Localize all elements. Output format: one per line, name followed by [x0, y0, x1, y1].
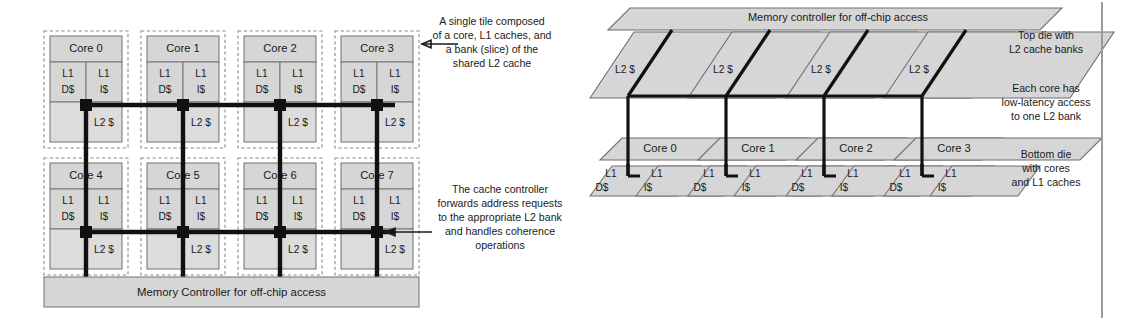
tile-l1i-line1: L1: [292, 195, 304, 206]
l1i-3d-line1: L1: [749, 168, 761, 179]
l1d-3d-line2: D$: [595, 182, 608, 193]
tile-l1i-line2: I$: [391, 84, 400, 95]
memory-controller-bar: Memory Controller for off-chip access: [44, 277, 419, 307]
tile-l1i-line1: L1: [389, 68, 401, 79]
tile-note-line-4: shared L2 cache: [453, 57, 531, 69]
tile-l2-label: L2 $: [191, 117, 211, 128]
l1i-3d-line2: I$: [840, 182, 849, 193]
tile-l1d-line1: L1: [62, 195, 74, 206]
tile-l2-label: L2 $: [191, 244, 211, 255]
core-3d-label: Core 1: [741, 142, 775, 154]
l1i-3d-line2: I$: [644, 182, 653, 193]
latency-note-line-3: to one L2 bank: [1011, 110, 1082, 122]
l1d-3d-line1: L1: [605, 168, 617, 179]
memory-controller-label: Memory Controller for off-chip access: [137, 286, 326, 298]
l2-bank-label: L2 $: [909, 64, 929, 75]
l1i-3d-line1: L1: [945, 168, 957, 179]
bottom-die-l1-caches: L1 D$ L1 I$ L1 D$ L1 I$ L1 D$ L1 I$: [590, 166, 1040, 196]
figure-canvas: Core 0 L1 D$ L1 I$ L2 $ Core 1 L1 D$ L1: [0, 0, 1137, 320]
memory-controller-3d-label: Memory controller for off-chip access: [748, 11, 929, 23]
tile-l1d-line2: D$: [255, 211, 268, 222]
top-die-note-line-2: L2 cache banks: [1009, 43, 1083, 55]
l2-bank-label: L2 $: [615, 64, 635, 75]
l1d-3d-line2: D$: [693, 182, 706, 193]
tile-l1d-line2: D$: [61, 211, 74, 222]
l1i-3d-line2: I$: [742, 182, 751, 193]
core-3d-label: Core 3: [937, 142, 971, 154]
tile-l1i-line1: L1: [98, 68, 110, 79]
l1i-3d-line2: I$: [938, 182, 947, 193]
latency-note-line-2: low-latency access: [1002, 96, 1091, 108]
tile-l1i-line2: I$: [294, 211, 303, 222]
tile-l2-label: L2 $: [385, 244, 405, 255]
controller-note-line-4: and handles coherence: [445, 225, 555, 237]
annotation-bottom-die: Bottom die with cores and L1 caches: [1012, 148, 1081, 188]
l1d-3d-line1: L1: [801, 168, 813, 179]
controller-note-line-3: to the appropriate L2 bank: [438, 211, 562, 223]
tile-l1d-line2: D$: [158, 211, 171, 222]
tile-l1d-line2: D$: [255, 84, 268, 95]
annotation-tile-note: A single tile composed of a core, L1 cac…: [422, 15, 552, 69]
tile-note-line-2: of a core, L1 caches, and: [433, 29, 552, 41]
core-3d-label: Core 0: [643, 142, 677, 154]
l1i-3d-line1: L1: [847, 168, 859, 179]
tile-l1d-line2: D$: [61, 84, 74, 95]
core-3d-label: Core 2: [839, 142, 873, 154]
l2-bank-label: L2 $: [811, 64, 831, 75]
figure-root: Core 0 L1 D$ L1 I$ L2 $ Core 1 L1 D$ L1: [0, 0, 1137, 320]
tile-note-line-1: A single tile composed: [439, 15, 545, 27]
tile-l1d-line1: L1: [62, 68, 74, 79]
tile-l2-label: L2 $: [385, 117, 405, 128]
controller-note-line-1: The cache controller: [452, 183, 548, 195]
tile-l1i-line2: I$: [391, 211, 400, 222]
memory-controller-3d: Memory controller for off-chip access: [608, 8, 1062, 30]
tile-l2-label: L2 $: [94, 117, 114, 128]
tile-l2-label: L2 $: [288, 244, 308, 255]
tile-l1d-line2: D$: [158, 84, 171, 95]
tile-l1d-line2: D$: [352, 84, 365, 95]
tile-l1i-line1: L1: [195, 68, 207, 79]
top-die-note-line-1: Top die with: [1018, 29, 1074, 41]
tile-l1d-line1: L1: [159, 68, 171, 79]
tile-core-label: Core 2: [263, 42, 297, 54]
tile-l1i-line2: I$: [197, 84, 206, 95]
bottom-die-note-line-2: with cores: [1021, 162, 1070, 174]
tile-l1d-line1: L1: [256, 195, 268, 206]
bottom-die-note-line-3: and L1 caches: [1012, 176, 1081, 188]
tile-l1i-line1: L1: [98, 195, 110, 206]
tile-core-label: Core 3: [360, 42, 394, 54]
l1i-3d-line1: L1: [651, 168, 663, 179]
tile-l1i-line1: L1: [195, 195, 207, 206]
l1d-3d-line2: D$: [889, 182, 902, 193]
tile-l1d-line1: L1: [256, 68, 268, 79]
tile-l1i-line2: I$: [100, 84, 109, 95]
tile-l1d-line1: L1: [159, 195, 171, 206]
tile-core-label: Core 1: [166, 42, 200, 54]
tile-l1i-line2: I$: [294, 84, 303, 95]
tile-l1i-line1: L1: [292, 68, 304, 79]
tile-core-label: Core 0: [69, 42, 103, 54]
tile-l1i-line1: L1: [389, 195, 401, 206]
bottom-die-note-line-1: Bottom die: [1021, 148, 1072, 160]
l1d-3d-line1: L1: [703, 168, 715, 179]
tile-note-line-3: a bank (slice) of the: [446, 43, 539, 55]
tile-l1d-line1: L1: [353, 68, 365, 79]
l2-bank-label: L2 $: [713, 64, 733, 75]
tile-l1d-line2: D$: [352, 211, 365, 222]
tile-l1d-line1: L1: [353, 195, 365, 206]
l1d-3d-line1: L1: [899, 168, 911, 179]
tile-l1i-line2: I$: [197, 211, 206, 222]
controller-note-line-5: operations: [475, 239, 524, 251]
annotation-latency: Each core has low-latency access to one …: [1002, 82, 1091, 122]
latency-note-line-1: Each core has: [1012, 82, 1080, 94]
l1d-3d-line2: D$: [791, 182, 804, 193]
tile-l1i-line2: I$: [100, 211, 109, 222]
tile-l2-label: L2 $: [288, 117, 308, 128]
left-diagram: Core 0 L1 D$ L1 I$ L2 $ Core 1 L1 D$ L1: [44, 31, 419, 307]
tile-l2-label: L2 $: [94, 244, 114, 255]
controller-note-line-2: forwards address requests: [438, 197, 563, 209]
